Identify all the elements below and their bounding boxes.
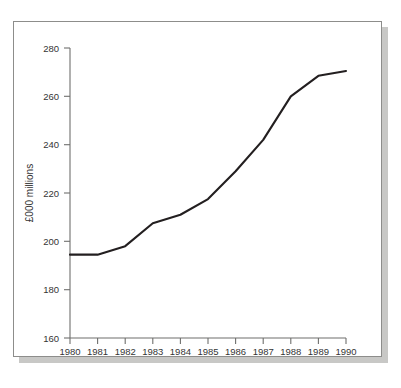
x-axis-tick-labels: 1980 1981 1982 1983 1984 1985 1986 1987 … bbox=[59, 346, 356, 356]
figure-frame: 160 180 200 220 240 260 280 bbox=[13, 21, 382, 357]
page-root: 160 180 200 220 240 260 280 bbox=[0, 0, 401, 388]
x-tick-label-1989: 1989 bbox=[308, 346, 329, 356]
y-tick-label-200: 200 bbox=[43, 236, 59, 247]
y-tick-label-220: 220 bbox=[43, 188, 59, 199]
line-chart: 160 180 200 220 240 260 280 bbox=[14, 22, 381, 356]
plot-background bbox=[14, 22, 381, 356]
y-tick-label-180: 180 bbox=[43, 284, 59, 295]
y-tick-label-260: 260 bbox=[43, 91, 59, 102]
x-tick-label-1985: 1985 bbox=[197, 346, 218, 356]
y-axis-title: £000 millions bbox=[24, 164, 35, 222]
x-tick-label-1984: 1984 bbox=[170, 346, 191, 356]
x-tick-label-1990: 1990 bbox=[335, 346, 356, 356]
y-tick-label-240: 240 bbox=[43, 139, 59, 150]
y-tick-label-160: 160 bbox=[43, 333, 59, 344]
y-tick-label-280: 280 bbox=[43, 43, 59, 54]
x-tick-label-1983: 1983 bbox=[142, 346, 163, 356]
x-tick-label-1986: 1986 bbox=[225, 346, 246, 356]
x-tick-label-1988: 1988 bbox=[280, 346, 301, 356]
x-tick-label-1987: 1987 bbox=[253, 346, 274, 356]
x-tick-label-1981: 1981 bbox=[87, 346, 108, 356]
x-tick-label-1980: 1980 bbox=[59, 346, 80, 356]
x-tick-label-1982: 1982 bbox=[115, 346, 136, 356]
